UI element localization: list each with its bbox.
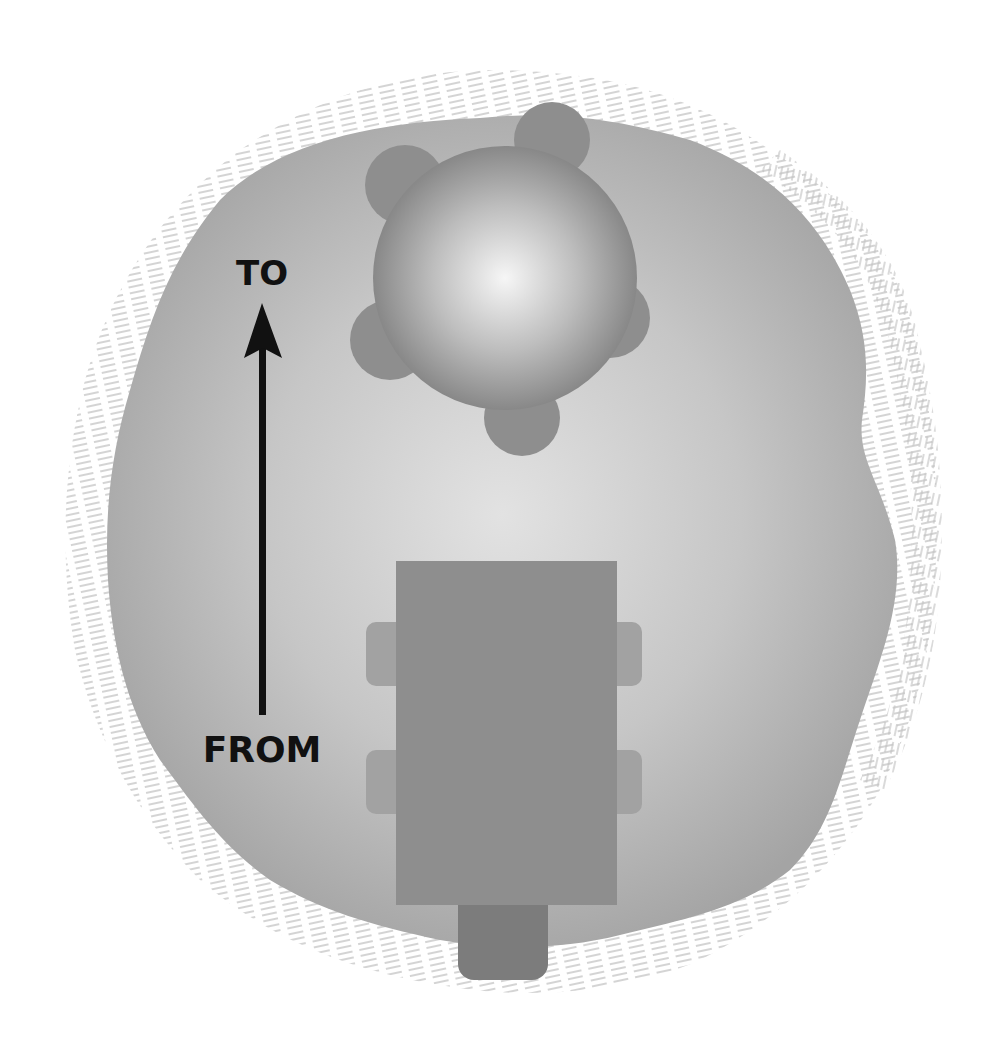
- arrow-shaft: [259, 345, 266, 715]
- label-to: TO: [236, 253, 288, 293]
- round-table: [373, 146, 637, 410]
- label-from: FROM: [203, 729, 322, 770]
- rect-table: [396, 561, 617, 905]
- floor-plan-diagram: TO FROM: [0, 0, 994, 1055]
